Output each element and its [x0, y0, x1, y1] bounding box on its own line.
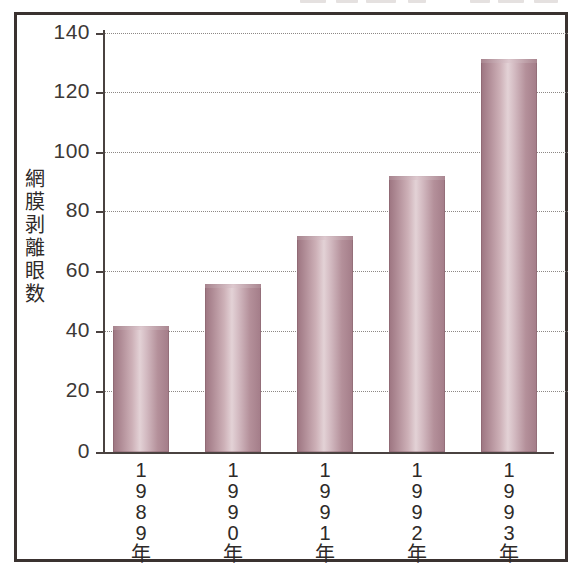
- xtick-1991-char-4: 1: [297, 523, 353, 544]
- y-axis-title-char-2: 膜: [22, 191, 48, 214]
- y-axis-line: [103, 30, 105, 454]
- xtick-1993-char-4: 3: [481, 523, 537, 544]
- xtick-1992-char-3: 9: [389, 502, 445, 523]
- ytick-label-40: 40: [30, 318, 90, 342]
- xtick-1990-char-3: 9: [205, 502, 261, 523]
- bar-1992[interactable]: [389, 176, 445, 452]
- xtick-1993-char-5: 年: [481, 544, 537, 565]
- ytick-label-20: 20: [30, 378, 90, 402]
- xtick-1989-char-1: 1: [113, 460, 169, 481]
- bar-top-1993: [481, 59, 537, 63]
- bar-top-1990: [205, 284, 261, 288]
- xtick-1993-char-1: 1: [481, 460, 537, 481]
- xtick-1989-char-2: 9: [113, 481, 169, 502]
- bar-top-1991: [297, 236, 353, 240]
- xtick-1990-char-2: 9: [205, 481, 261, 502]
- y-axis-title: 網 膜 剥 離 眼 数: [22, 168, 48, 306]
- y-axis-title-char-3: 剥: [22, 214, 48, 237]
- gridline-140: [104, 33, 568, 34]
- xtick-1991-char-1: 1: [297, 460, 353, 481]
- y-axis-title-char-4: 離: [22, 237, 48, 260]
- bar-1989[interactable]: [113, 326, 169, 452]
- bar-chart: 140 120 100 80 60 40 20 0 網 膜 剥 離 眼 数 1 …: [0, 0, 582, 580]
- bar-1993[interactable]: [481, 59, 537, 452]
- ytick-label-0: 0: [30, 439, 90, 463]
- xtick-1992-char-1: 1: [389, 460, 445, 481]
- xtick-1993-char-2: 9: [481, 481, 537, 502]
- ytick-label-140: 140: [30, 20, 90, 44]
- xtick-1991-char-5: 年: [297, 544, 353, 565]
- xtick-1993-char-3: 9: [481, 502, 537, 523]
- xtick-1992-char-4: 2: [389, 523, 445, 544]
- xtick-1992-char-2: 9: [389, 481, 445, 502]
- y-axis-title-char-5: 眼: [22, 260, 48, 283]
- xtick-1989-char-5: 年: [113, 544, 169, 565]
- xtick-label-1992: 1 9 9 2 年: [389, 460, 445, 565]
- bar-1991[interactable]: [297, 236, 353, 452]
- bar-top-1992: [389, 176, 445, 180]
- xtick-label-1990: 1 9 9 0 年: [205, 460, 261, 565]
- xtick-1991-char-2: 9: [297, 481, 353, 502]
- xtick-label-1993: 1 9 9 3 年: [481, 460, 537, 565]
- xtick-1991-char-3: 9: [297, 502, 353, 523]
- xtick-1990-char-4: 0: [205, 523, 261, 544]
- ytick-label-120: 120: [30, 79, 90, 103]
- xtick-1990-char-1: 1: [205, 460, 261, 481]
- y-axis-title-char-6: 数: [22, 283, 48, 306]
- xtick-1992-char-5: 年: [389, 544, 445, 565]
- xtick-label-1989: 1 9 8 9 年: [113, 460, 169, 565]
- x-axis-line: [96, 452, 554, 454]
- ytick-label-100: 100: [30, 139, 90, 163]
- xtick-1989-char-3: 8: [113, 502, 169, 523]
- bar-1990[interactable]: [205, 284, 261, 452]
- xtick-label-1991: 1 9 9 1 年: [297, 460, 353, 565]
- y-axis-title-char-1: 網: [22, 168, 48, 191]
- xtick-1989-char-4: 9: [113, 523, 169, 544]
- xtick-1990-char-5: 年: [205, 544, 261, 565]
- bar-top-1989: [113, 326, 169, 330]
